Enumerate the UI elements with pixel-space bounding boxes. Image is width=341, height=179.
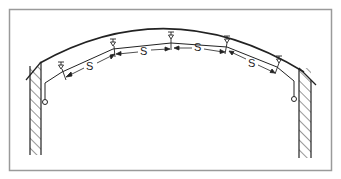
left-wall [26,62,41,155]
support-icon [275,56,282,74]
pipe-support-diagram: S S S S [0,0,341,179]
span-label: S [86,60,93,72]
dimension-span-4: S [229,51,275,73]
span-label: S [194,41,201,53]
support-icon [168,32,174,50]
pipe-run [45,43,294,100]
span-label: S [140,45,147,57]
left-end-ring [43,100,48,105]
dimension-span-3: S [174,41,225,54]
right-end-ring [292,97,297,102]
dimension-span-1: S [66,54,115,77]
right-wall [299,68,316,158]
dimension-span-2: S [116,45,170,57]
span-label: S [248,57,255,69]
diagram-frame [10,10,332,171]
